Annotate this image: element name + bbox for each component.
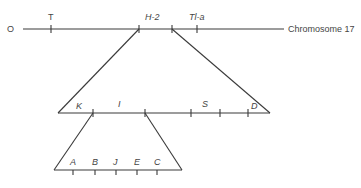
chromosome-17-label: Chromosome 17 xyxy=(288,25,355,34)
marker-label-i: I xyxy=(118,100,121,109)
marker-label-tla: Tl-a xyxy=(189,13,205,22)
expand-h2-left xyxy=(58,29,139,113)
marker-label-a: A xyxy=(70,158,76,167)
expand-i-right xyxy=(145,113,182,170)
marker-label-t: T xyxy=(48,13,54,22)
marker-label-b: B xyxy=(92,158,98,167)
marker-label-k: K xyxy=(76,102,82,111)
marker-label-h2: H-2 xyxy=(145,13,160,22)
marker-label-e: E xyxy=(134,158,140,167)
marker-label-c: C xyxy=(154,158,161,167)
marker-label-d: D xyxy=(251,102,258,111)
marker-label-j: J xyxy=(113,158,118,167)
marker-label-s: S xyxy=(202,100,208,109)
origin-label: O xyxy=(7,25,14,34)
